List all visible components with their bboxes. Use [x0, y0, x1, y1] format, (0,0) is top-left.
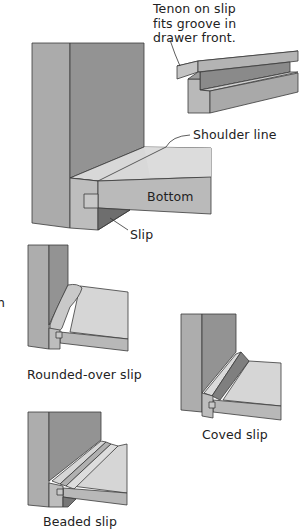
slip-leader-line	[110, 218, 128, 230]
tenon-callout-line-2: fits groove in	[153, 17, 236, 32]
beaded-slip-caption: Beaded slip	[43, 515, 117, 530]
bottom-label: Bottom	[147, 190, 193, 205]
beaded-slip-drawing	[28, 412, 127, 507]
slip-label: Slip	[130, 228, 153, 243]
coved-slip-drawing	[181, 314, 281, 420]
tenon-callout: Tenon on slip fits groove in drawer fron…	[153, 2, 236, 46]
coved-slip-caption: Coved slip	[202, 428, 268, 443]
shoulder-line-label: Shoulder line	[193, 128, 277, 143]
rounded-over-slip-caption: Rounded-over slip	[27, 368, 142, 383]
rounded-over-slip-drawing	[28, 245, 128, 351]
slip-detail-drawing	[177, 51, 298, 113]
tenon-callout-line-3: drawer front.	[153, 31, 236, 46]
shoulder-leader-line	[166, 135, 190, 147]
cropped-text-fragment: h	[0, 296, 5, 311]
drawer-slip-illustration	[0, 0, 302, 532]
tenon-callout-line-1: Tenon on slip	[153, 2, 236, 17]
